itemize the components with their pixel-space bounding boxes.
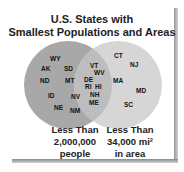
caption-line: in area: [95, 148, 165, 160]
state-label: NV: [71, 93, 80, 100]
state-label: NH: [90, 91, 99, 98]
caption-line: Less Than: [95, 124, 165, 136]
caption-line: 34,000 mi²: [95, 136, 165, 148]
state-label: NE: [54, 104, 63, 111]
state-label: WV: [94, 69, 104, 76]
state-label: DE: [84, 76, 93, 83]
state-label: CT: [114, 52, 123, 59]
state-label: NM: [70, 107, 80, 114]
state-label: ND: [40, 77, 49, 84]
state-label: MA: [113, 77, 123, 84]
state-label: RI: [85, 83, 92, 90]
state-label: NJ: [130, 61, 138, 68]
state-label: MD: [136, 87, 146, 94]
state-label: WY: [50, 55, 60, 62]
state-label: ME: [89, 99, 99, 106]
caption-right: Less Than 34,000 mi² in area: [95, 124, 165, 160]
state-label: ID: [48, 92, 55, 99]
state-label: VT: [90, 62, 98, 69]
state-label: AK: [41, 65, 50, 72]
state-label: SD: [64, 65, 73, 72]
state-label: SC: [124, 101, 133, 108]
state-label: HI: [95, 83, 102, 90]
state-label: MT: [65, 77, 74, 84]
